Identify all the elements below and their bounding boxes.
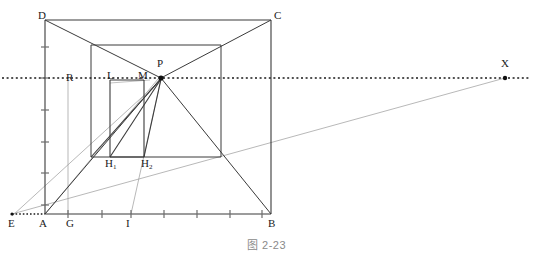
line-P-to-B [161, 78, 271, 214]
label-L: L [107, 70, 114, 81]
line-H1-to-P [110, 79, 161, 157]
label-X: X [501, 58, 509, 69]
point-P [158, 75, 163, 80]
label-H1-base: H [105, 157, 113, 169]
label-A: A [39, 218, 47, 229]
label-M: M [138, 70, 148, 81]
label-R: R [66, 72, 73, 83]
label-H2-sub: 2 [149, 163, 153, 171]
geometry-svg [0, 0, 533, 263]
label-C: C [274, 10, 281, 21]
perspective-diagonals [45, 20, 271, 214]
figure-caption: 图 2-23 [0, 236, 533, 252]
label-H2-base: H [141, 157, 149, 169]
label-E: E [8, 218, 15, 229]
figure-canvas: D C P X R L M H1 H2 E A G I B 图 2-23 [0, 0, 533, 263]
label-B: B [268, 218, 275, 229]
label-G: G [66, 218, 74, 229]
label-D: D [38, 10, 46, 21]
construction-lines-gray [12, 77, 505, 216]
line-P-to-C [161, 20, 271, 78]
line-E-to-X [12, 78, 505, 214]
point-X [503, 76, 507, 80]
label-P: P [157, 58, 163, 69]
line-innerBL-to-P [91, 79, 161, 157]
line-H2-to-P [144, 79, 161, 157]
rays-to-P [91, 79, 161, 157]
label-H1: H1 [105, 158, 116, 169]
label-I: I [126, 218, 130, 229]
label-H2: H2 [141, 158, 152, 169]
point-E [10, 212, 13, 215]
outer-square [45, 20, 271, 214]
label-H1-sub: 1 [113, 163, 117, 171]
line-E-to-R [12, 77, 164, 216]
